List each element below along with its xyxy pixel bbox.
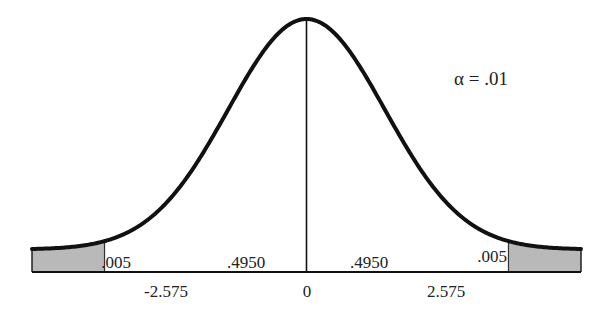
left-center-area-label: .4950 [227, 253, 265, 272]
tick-label-neg-critical: -2.575 [144, 282, 188, 301]
left-tail-area-label: .005 [101, 253, 131, 272]
right-tail-area-label: .005 [477, 247, 507, 266]
tick-label-zero: 0 [303, 282, 312, 301]
right-center-area-label: .4950 [350, 253, 388, 272]
tick-label-pos-critical: 2.575 [427, 282, 465, 301]
normal-distribution-figure: .005 .4950 .4950 .005 -2.575 0 2.575 α =… [0, 0, 614, 314]
alpha-label: α = .01 [454, 68, 508, 89]
